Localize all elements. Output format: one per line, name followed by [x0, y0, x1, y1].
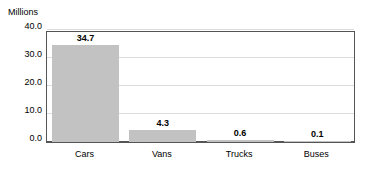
gridline-40.0: [47, 29, 354, 30]
x-tick-label-cars: Cars: [46, 148, 123, 160]
plot-area: 34.74.30.60.1: [46, 31, 355, 143]
bar-chart: Millions 0.010.020.030.040.0 34.74.30.60…: [0, 0, 370, 179]
bar-buses[interactable]: 0.1: [284, 32, 351, 142]
y-axis-tick-labels: 0.010.020.030.040.0: [0, 31, 42, 143]
bar-value-label: 4.3: [115, 118, 210, 128]
y-tick-label: 40.0: [0, 21, 42, 31]
bar-rect: [129, 130, 196, 142]
bar-rect: [284, 141, 351, 142]
bar-vans[interactable]: 4.3: [129, 32, 196, 142]
bar-rect: [207, 140, 274, 142]
y-tick-label: 30.0: [0, 49, 42, 59]
y-tick-label: 0.0: [0, 133, 42, 143]
bar-value-label: 34.7: [38, 33, 133, 43]
x-axis-tick-labels: CarsVansTrucksBuses: [46, 148, 355, 164]
bar-trucks[interactable]: 0.6: [207, 32, 274, 142]
bar-cars[interactable]: 34.7: [52, 32, 119, 142]
y-tick-label: 10.0: [0, 105, 42, 115]
x-tick-label-trucks: Trucks: [201, 148, 278, 160]
y-axis-title: Millions: [8, 7, 38, 18]
bar-rect: [52, 45, 119, 142]
y-tick-label: 20.0: [0, 77, 42, 87]
x-tick-label-vans: Vans: [123, 148, 200, 160]
x-tick-label-buses: Buses: [278, 148, 355, 160]
bar-value-label: 0.1: [270, 129, 365, 139]
bars-layer: 34.74.30.60.1: [47, 32, 354, 142]
